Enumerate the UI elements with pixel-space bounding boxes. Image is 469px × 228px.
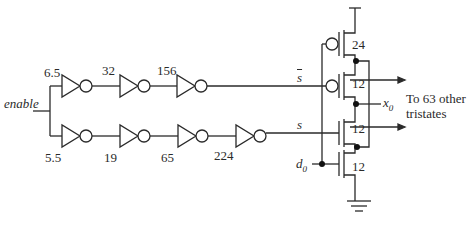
- inverter-top-1: [62, 75, 92, 97]
- inverter-bottom-3: [178, 125, 208, 147]
- d0-junction-dot: [319, 161, 325, 167]
- size-bottom-2: 19: [104, 151, 117, 164]
- tristate-driver-diagram: enable 6.5 32 156 5.5 19 65 224 s s d0 2…: [0, 0, 469, 228]
- pmos-top-size: 24: [352, 38, 365, 51]
- size-top-3: 156: [157, 64, 177, 77]
- nmos-enable-size: 12: [352, 122, 365, 135]
- size-bottom-1: 5.5: [45, 151, 61, 164]
- s-label: s: [297, 118, 302, 131]
- x0-label: x0: [383, 96, 393, 113]
- inverter-top-3: [177, 75, 207, 97]
- size-top-1: 6.5: [44, 66, 60, 79]
- pmos-top-bubble: [326, 38, 338, 50]
- inverter-bottom-2: [120, 125, 150, 147]
- inverter-top-2: [120, 75, 150, 97]
- circuit-schematic: [0, 0, 469, 228]
- size-bottom-4: 224: [214, 149, 234, 162]
- size-top-2: 32: [102, 64, 115, 77]
- inverter-bottom-1: [62, 125, 92, 147]
- inverter-bottom-4: [236, 125, 266, 147]
- pmos-enable-size: 12: [352, 77, 365, 90]
- nmos-bottom-size: 12: [352, 160, 365, 173]
- fanout-label-line1: To 63 other: [406, 92, 466, 105]
- s-bar-label: s: [297, 71, 302, 84]
- enable-label: enable: [4, 97, 39, 110]
- d0-label: d0: [296, 157, 307, 174]
- fanout-label-line2: tristates: [406, 107, 446, 120]
- pmos-enable-bubble: [326, 80, 338, 92]
- size-bottom-3: 65: [161, 151, 174, 164]
